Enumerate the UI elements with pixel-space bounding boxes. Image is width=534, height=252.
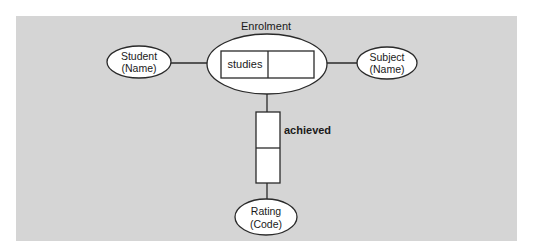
subject-refmode: (Name): [369, 63, 404, 75]
student-refmode: (Name): [121, 62, 156, 74]
rating-name: Rating: [251, 205, 282, 217]
entity-rating[interactable]: Rating (Code): [235, 199, 297, 235]
entity-student[interactable]: Student (Name): [107, 46, 171, 78]
rating-refmode: (Code): [250, 218, 282, 230]
enrolment-label: Enrolment: [241, 20, 291, 32]
subject-name: Subject: [369, 51, 404, 63]
er-diagram: studies Enrolment Student (Name) Subject…: [0, 0, 534, 252]
enrolment-nested-entity[interactable]: studies: [207, 34, 327, 94]
studies-label: studies: [228, 58, 263, 70]
achieved-label: achieved: [284, 124, 331, 136]
fact-achieved[interactable]: achieved: [256, 112, 331, 183]
student-name: Student: [121, 50, 157, 62]
entity-subject[interactable]: Subject (Name): [357, 47, 417, 79]
